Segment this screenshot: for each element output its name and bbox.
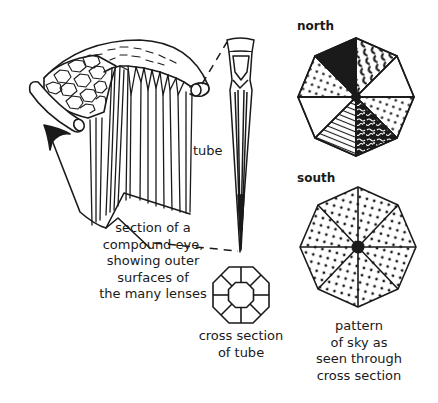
south-sky-pattern	[300, 187, 416, 307]
caption-line: surfaces of	[58, 270, 248, 287]
caption-line: showing outer	[58, 253, 248, 270]
caption-line: seen through	[300, 351, 418, 368]
caption-line: compound eye,	[58, 237, 248, 254]
label-north: north	[297, 18, 334, 35]
caption-line: section of a	[58, 220, 248, 237]
compound-eye-illustration	[30, 40, 209, 248]
label-south: south	[297, 170, 335, 187]
north-sky-pattern	[298, 38, 414, 156]
caption-line: of tube	[186, 345, 296, 362]
caption-line: of sky as	[300, 335, 418, 352]
caption-compound-eye: section of a compound eye, showing outer…	[58, 220, 248, 303]
caption-line: the many lenses	[58, 286, 248, 303]
caption-cross-section: cross section of tube	[186, 328, 296, 361]
caption-sky-pattern: pattern of sky as seen through cross sec…	[300, 318, 418, 384]
caption-line: cross section	[186, 328, 296, 345]
diagram-canvas: north south tube section of a compound e…	[0, 0, 438, 403]
caption-line: cross section	[300, 368, 418, 385]
label-tube: tube	[193, 143, 223, 160]
caption-line: pattern	[300, 318, 418, 335]
